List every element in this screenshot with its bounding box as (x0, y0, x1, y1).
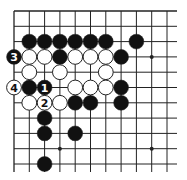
black-stone (114, 95, 129, 110)
white-stone-disc (98, 50, 113, 65)
move-number-label: 4 (10, 82, 18, 95)
star-point (58, 147, 62, 151)
white-stone-disc (53, 65, 68, 80)
black-stone-disc (114, 80, 129, 95)
black-stone-disc (68, 34, 83, 49)
star-point (150, 147, 154, 151)
black-stone (37, 157, 52, 172)
white-stone-disc (68, 50, 83, 65)
black-stone (37, 111, 52, 126)
white-stone (98, 50, 113, 65)
black-stone-disc (53, 34, 68, 49)
black-stone-disc (22, 34, 37, 49)
move-number-label: 2 (41, 97, 49, 110)
black-stone (68, 95, 83, 110)
move-number-label: 3 (10, 51, 18, 64)
white-stone-disc (22, 50, 37, 65)
black-stone (37, 34, 52, 49)
white-stone (37, 50, 52, 65)
white-stone-disc (98, 80, 113, 95)
white-stone: 4 (7, 80, 22, 95)
go-board: 3142 (0, 0, 187, 180)
black-stone-disc (83, 34, 98, 49)
black-stone-disc (37, 157, 52, 172)
black-stone: 1 (37, 80, 52, 95)
white-stone-disc (53, 95, 68, 110)
black-stone-disc (83, 95, 98, 110)
white-stone (98, 65, 113, 80)
star-point (150, 55, 154, 59)
white-stone-disc (68, 80, 83, 95)
black-stone (68, 126, 83, 141)
black-stone-disc (22, 80, 37, 95)
black-stone-disc (68, 95, 83, 110)
white-stone (68, 50, 83, 65)
move-number-label: 1 (41, 82, 49, 95)
black-stone (37, 126, 52, 141)
black-stone-disc (37, 126, 52, 141)
white-stone-disc (22, 65, 37, 80)
black-stone-disc (98, 34, 113, 49)
black-stone-disc (68, 126, 83, 141)
white-stone-disc (83, 80, 98, 95)
white-stone-disc (37, 50, 52, 65)
black-stone (98, 34, 113, 49)
white-stone-disc (98, 65, 113, 80)
black-stone (114, 80, 129, 95)
black-stone (22, 80, 37, 95)
black-stone (83, 34, 98, 49)
white-stone (83, 50, 98, 65)
white-stone-disc (22, 95, 37, 110)
white-stone (68, 80, 83, 95)
black-stone: 3 (7, 50, 22, 65)
white-stone (53, 65, 68, 80)
black-stone (53, 34, 68, 49)
black-stone (22, 34, 37, 49)
black-stone-disc (129, 34, 144, 49)
white-stone (83, 80, 98, 95)
white-stone (98, 80, 113, 95)
black-stone (83, 95, 98, 110)
white-stone (22, 65, 37, 80)
white-stone (53, 95, 68, 110)
white-stone (22, 50, 37, 65)
white-stone: 2 (37, 95, 52, 110)
black-stone (129, 34, 144, 49)
white-stone-disc (83, 50, 98, 65)
black-stone-disc (37, 34, 52, 49)
black-stone (53, 50, 68, 65)
black-stone-disc (37, 111, 52, 126)
black-stone-disc (114, 50, 129, 65)
black-stone-disc (53, 50, 68, 65)
black-stone (68, 34, 83, 49)
black-stone (114, 50, 129, 65)
white-stone (22, 95, 37, 110)
black-stone-disc (114, 95, 129, 110)
